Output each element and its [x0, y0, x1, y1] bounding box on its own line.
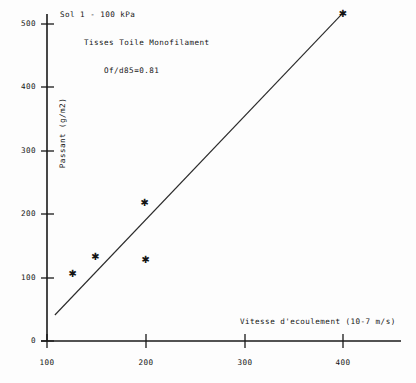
- annotation-title: Sol 1 - 100 kPa: [60, 10, 135, 19]
- y-tick-label-100: 100: [10, 273, 36, 282]
- y-tick-label-400: 400: [10, 82, 36, 91]
- x-tick-label-200: 200: [131, 358, 161, 367]
- chart-figure: ✱✱✱✱✱ Sol 1 - 100 kPa Tisses Toile Monof…: [0, 0, 416, 383]
- y-axis-label-wrapper: Passant (g/m2): [55, 78, 69, 188]
- data-point: ✱: [69, 265, 77, 280]
- y-tick-label-500: 500: [10, 19, 36, 28]
- x-axis-label: Vitesse d'ecoulement (10-7 m/s): [240, 317, 396, 326]
- y-tick-label-300: 300: [10, 146, 36, 155]
- y-tick-label-0: 0: [10, 336, 36, 345]
- annotation-opening-ratio: Of/d85=0.81: [104, 66, 159, 75]
- trend-line: [55, 12, 344, 315]
- y-axis-label: Passant (g/m2): [58, 98, 67, 168]
- data-point: ✱: [141, 194, 149, 209]
- data-point: ✱: [142, 251, 150, 266]
- y-tick-label-200: 200: [10, 209, 36, 218]
- data-point: ✱: [339, 5, 347, 20]
- annotation-fabric-type: Tisses Toile Monofilament: [84, 38, 210, 47]
- data-point: ✱: [91, 248, 99, 263]
- x-tick-label-400: 400: [328, 358, 358, 367]
- x-tick-label-100: 100: [32, 358, 62, 367]
- x-tick-label-300: 300: [230, 358, 260, 367]
